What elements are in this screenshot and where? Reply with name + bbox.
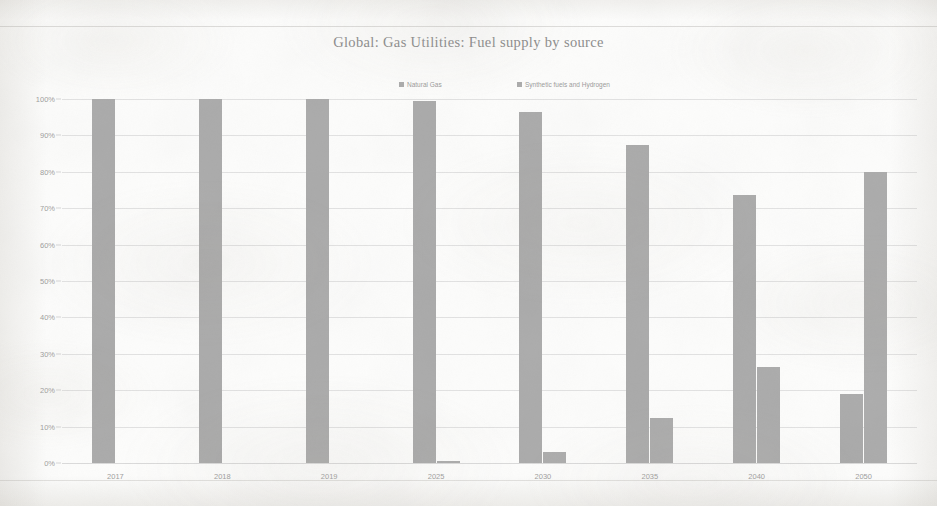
bar-group-2050: 2050 — [810, 99, 917, 463]
y-axis-tick-label: 40% — [40, 313, 55, 322]
legend-label: Synthetic fuels and Hydrogen — [525, 81, 610, 88]
scanned-page: Global: Gas Utilities: Fuel supply by so… — [0, 0, 937, 506]
plot-area: 0%10%20%30%40%50%60%70%80%90%100%2017201… — [62, 99, 917, 463]
y-axis-tick-mark-60 — [56, 244, 61, 245]
bar-2025-series-0[interactable] — [413, 101, 436, 463]
legend-item-1[interactable]: Synthetic fuels and Hydrogen — [517, 81, 610, 88]
chart-title: Global: Gas Utilities: Fuel supply by so… — [0, 34, 937, 51]
x-axis-tick-label: 2050 — [855, 472, 872, 481]
x-axis-tick-label: 2019 — [321, 472, 338, 481]
y-axis-tick-label: 0% — [44, 459, 55, 468]
legend-swatch-icon — [517, 82, 522, 87]
bar-group-2025: 2025 — [383, 99, 490, 463]
bar-group-2019: 2019 — [276, 99, 383, 463]
y-axis-tick-label: 20% — [40, 386, 55, 395]
y-axis-tick-mark-100 — [56, 99, 61, 100]
bar-2050-series-1[interactable] — [864, 172, 887, 463]
x-axis-tick-label: 2030 — [535, 472, 552, 481]
bar-2050-series-0[interactable] — [840, 394, 863, 463]
bar-group-2030: 2030 — [490, 99, 597, 463]
bar-2030-series-0[interactable] — [519, 112, 542, 463]
bar-group-2018: 2018 — [169, 99, 276, 463]
y-axis-tick-label: 100% — [36, 95, 55, 104]
y-axis-tick-mark-50 — [56, 281, 61, 282]
bar-2025-series-1[interactable] — [437, 461, 460, 463]
bar-2035-series-1[interactable] — [650, 418, 673, 464]
x-axis-tick-label: 2035 — [641, 472, 658, 481]
chart-legend: Natural GasSynthetic fuels and Hydrogen — [395, 80, 655, 94]
x-axis-tick-label: 2040 — [748, 472, 765, 481]
y-axis-tick-mark-80 — [56, 171, 61, 172]
legend-swatch-icon — [399, 82, 404, 87]
y-axis-tick-mark-30 — [56, 353, 61, 354]
bar-2040-series-0[interactable] — [733, 195, 756, 463]
bar-2030-series-1[interactable] — [543, 452, 566, 463]
bar-2017-series-0[interactable] — [92, 99, 115, 463]
y-axis-tick-mark-20 — [56, 390, 61, 391]
y-axis-tick-label: 50% — [40, 277, 55, 286]
y-axis-tick-label: 60% — [40, 240, 55, 249]
bar-2040-series-1[interactable] — [757, 367, 780, 463]
legend-item-0[interactable]: Natural Gas — [399, 81, 442, 88]
y-axis-tick-mark-10 — [56, 426, 61, 427]
bar-2018-series-0[interactable] — [199, 99, 222, 463]
x-axis-tick-label: 2025 — [428, 472, 445, 481]
bar-group-2035: 2035 — [596, 99, 703, 463]
y-axis-tick-label: 30% — [40, 349, 55, 358]
y-axis-tick-mark-90 — [56, 135, 61, 136]
bar-group-2040: 2040 — [703, 99, 810, 463]
y-axis-tick-label: 10% — [40, 422, 55, 431]
legend-label: Natural Gas — [407, 81, 442, 88]
y-axis-tick-label: 80% — [40, 167, 55, 176]
y-axis-tick-label: 90% — [40, 131, 55, 140]
bar-chart: Global: Gas Utilities: Fuel supply by so… — [0, 0, 937, 506]
y-axis-tick-mark-70 — [56, 208, 61, 209]
bar-2019-series-0[interactable] — [306, 99, 329, 463]
y-axis-tick-label: 70% — [40, 204, 55, 213]
x-axis-tick-label: 2018 — [214, 472, 231, 481]
gridline-0 — [62, 463, 917, 464]
x-axis-tick-label: 2017 — [107, 472, 124, 481]
bar-2035-series-0[interactable] — [626, 145, 649, 464]
y-axis-tick-mark-40 — [56, 317, 61, 318]
y-axis-tick-mark-0 — [56, 463, 61, 464]
bar-group-2017: 2017 — [62, 99, 169, 463]
